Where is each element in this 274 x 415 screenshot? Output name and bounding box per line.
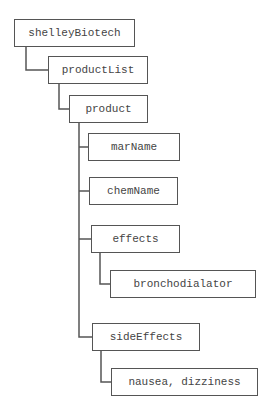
node-nausea-dizziness: nausea, dizziness — [111, 368, 258, 396]
connector-effects-bronchodialator — [100, 253, 110, 284]
node-chemName: chemName — [89, 177, 178, 205]
connector-root-productList — [26, 47, 48, 70]
node-product: product — [69, 95, 148, 123]
node-productList: productList — [48, 56, 148, 84]
node-sideEffects: sideEffects — [92, 323, 200, 351]
node-effects: effects — [91, 225, 180, 253]
node-shelleyBiotech: shelleyBiotech — [14, 19, 135, 47]
node-marName: marName — [88, 133, 180, 161]
node-bronchodialator: bronchodialator — [110, 270, 256, 298]
connector-sideEffects-nausea — [101, 351, 111, 382]
connector-productList-product — [59, 84, 69, 109]
